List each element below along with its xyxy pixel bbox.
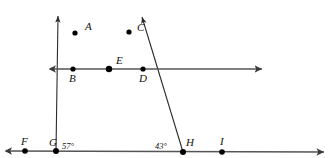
point-label-F: F	[20, 135, 28, 147]
point-label-A: A	[84, 20, 92, 32]
point-label-E: E	[115, 54, 123, 66]
point-label-B: B	[69, 72, 76, 84]
point-label-C: C	[137, 21, 145, 33]
point-G-dot	[53, 148, 59, 154]
geometry-canvas: A C B E D F G H I 57° 43°	[0, 0, 336, 158]
ray-GA-line	[56, 16, 58, 151]
point-H-dot	[180, 149, 186, 155]
point-F-dot	[22, 148, 28, 154]
point-label-G: G	[49, 136, 57, 148]
point-I-dot	[219, 149, 225, 155]
point-label-I: I	[219, 135, 225, 147]
point-A-dot	[72, 30, 77, 35]
angle-label-H: 43°	[155, 141, 168, 151]
point-label-D: D	[138, 72, 147, 84]
point-label-H: H	[185, 136, 195, 148]
point-D-dot	[140, 66, 145, 71]
point-C-dot	[126, 29, 131, 34]
point-E-dot	[106, 66, 112, 72]
ray-HC-line	[142, 17, 183, 152]
point-B-dot	[70, 66, 75, 71]
angle-label-G: 57°	[62, 141, 75, 151]
geometry-diagram: A C B E D F G H I 57° 43°	[0, 0, 336, 158]
